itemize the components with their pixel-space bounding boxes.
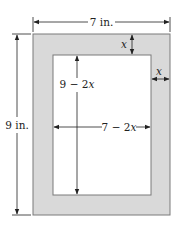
inner-width-label: 7 − 2x	[102, 121, 137, 133]
top-border-label: x	[121, 38, 127, 50]
inner-height-label: 9 − 2x	[60, 78, 95, 90]
outer-width-label: 7 in.	[90, 16, 113, 28]
outer-width-dimension: 7 in.	[33, 16, 170, 32]
frame-diagram: 7 in. 9 in. x x 9 − 2x 7 − 2x	[0, 0, 179, 229]
right-border-label: x	[156, 65, 162, 77]
outer-height-dimension: 9 in.	[5, 34, 31, 215]
outer-height-label: 9 in.	[5, 119, 28, 131]
